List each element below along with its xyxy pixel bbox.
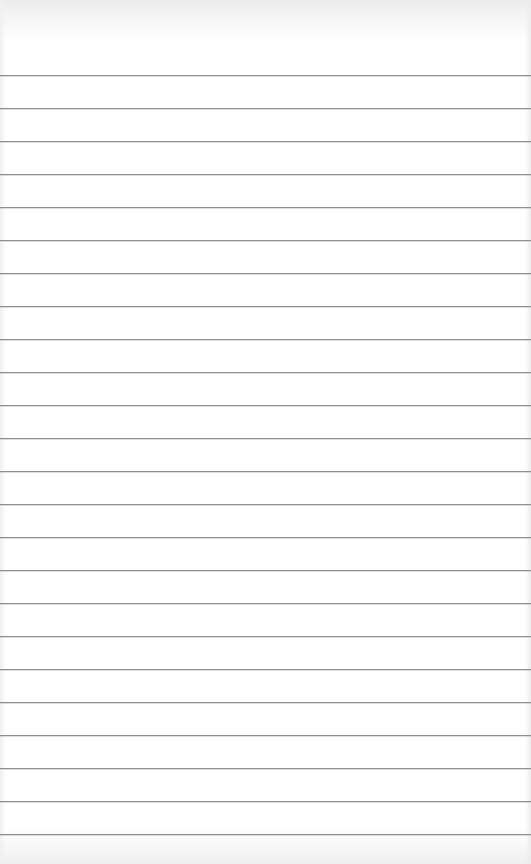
ruled-line (0, 537, 531, 538)
ruled-line (0, 570, 531, 571)
ruled-line (0, 603, 531, 604)
ruled-line (0, 768, 531, 769)
ruled-line (0, 669, 531, 670)
ruled-line (0, 174, 531, 175)
ruled-line (0, 240, 531, 241)
ruled-line (0, 141, 531, 142)
ruled-line (0, 636, 531, 637)
ruled-line (0, 405, 531, 406)
ruled-line (0, 372, 531, 373)
ruled-line (0, 108, 531, 109)
ruled-line (0, 339, 531, 340)
ruled-line (0, 438, 531, 439)
ruled-line (0, 273, 531, 274)
ruled-line (0, 702, 531, 703)
lined-paper-sheet (0, 0, 531, 864)
ruled-line (0, 801, 531, 802)
ruled-line (0, 834, 531, 835)
ruled-line (0, 735, 531, 736)
ruled-line (0, 207, 531, 208)
ruled-line (0, 471, 531, 472)
ruled-line (0, 306, 531, 307)
ruled-line (0, 75, 531, 76)
ruled-line (0, 504, 531, 505)
